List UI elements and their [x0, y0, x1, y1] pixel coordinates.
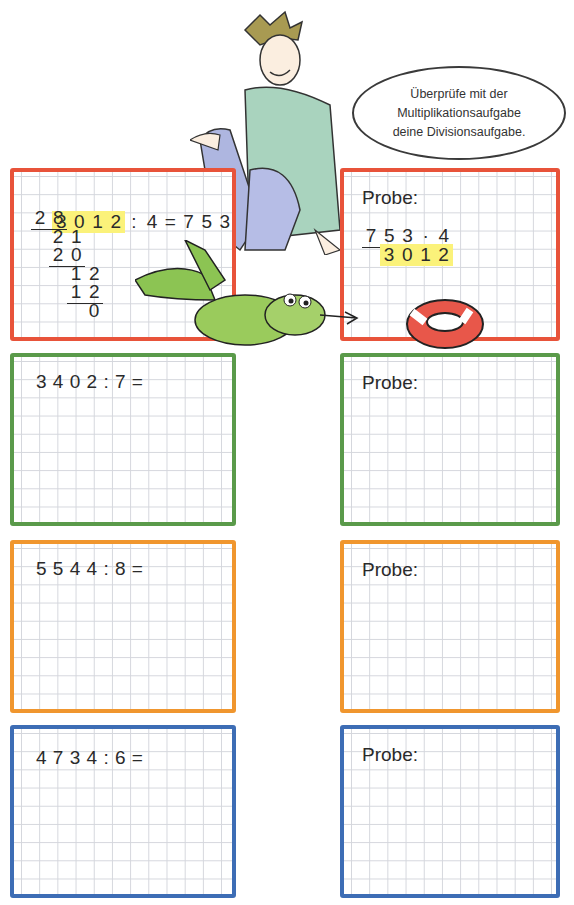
- lifebuoy-illustration: [400, 292, 490, 352]
- frog-illustration: [135, 240, 360, 360]
- task-1-division-box: 3 4 0 2 : 7 =: [10, 353, 236, 526]
- equals-sign: =: [161, 211, 179, 233]
- bubble-line-3: deine Divisionsaufgabe.: [393, 123, 526, 142]
- step-digit: 2: [49, 244, 67, 266]
- probe-label: Probe:: [362, 559, 418, 581]
- task-2-probe-box: Probe:: [340, 540, 560, 713]
- result-digit: 5: [198, 211, 216, 233]
- step-digit: 0: [85, 300, 103, 322]
- task-1-expression: 3 4 0 2 : 7 =: [36, 371, 143, 393]
- task-2-expression: 5 5 4 4 : 8 =: [36, 558, 143, 580]
- bubble-line-1: Überprüfe mit der: [410, 85, 507, 104]
- product-digit: 1: [416, 244, 434, 266]
- division-operator: :: [125, 211, 143, 233]
- bubble-line-2: Multiplikationsaufgabe: [397, 104, 521, 123]
- task-1-probe-box: Probe:: [340, 353, 560, 526]
- product-digit: 0: [398, 244, 416, 266]
- dividend-digit: 2: [107, 211, 125, 233]
- factor-digit: 7: [362, 225, 380, 247]
- result-digit: 3: [216, 211, 234, 233]
- task-3-division-box: 4 7 3 4 : 6 =: [10, 725, 236, 898]
- step-digit: 1: [67, 281, 85, 303]
- probe-label: Probe:: [362, 372, 418, 394]
- result-digit: 7: [179, 211, 197, 233]
- probe-product: 3012: [380, 244, 453, 266]
- step-0: 0: [85, 300, 103, 322]
- probe-label: Probe:: [362, 187, 418, 209]
- task-3-probe-box: Probe:: [340, 725, 560, 898]
- step-digit: 2: [31, 207, 49, 229]
- divisor: 4: [143, 211, 161, 233]
- speech-bubble: Überprüfe mit der Multiplikationsaufgabe…: [352, 66, 566, 160]
- product-digit: 2: [435, 244, 453, 266]
- product-digit: 3: [380, 244, 398, 266]
- probe-label: Probe:: [362, 744, 418, 766]
- dividend-digit: 1: [89, 211, 107, 233]
- task-3-expression: 4 7 3 4 : 6 =: [36, 747, 143, 769]
- task-2-division-box: 5 5 4 4 : 8 =: [10, 540, 236, 713]
